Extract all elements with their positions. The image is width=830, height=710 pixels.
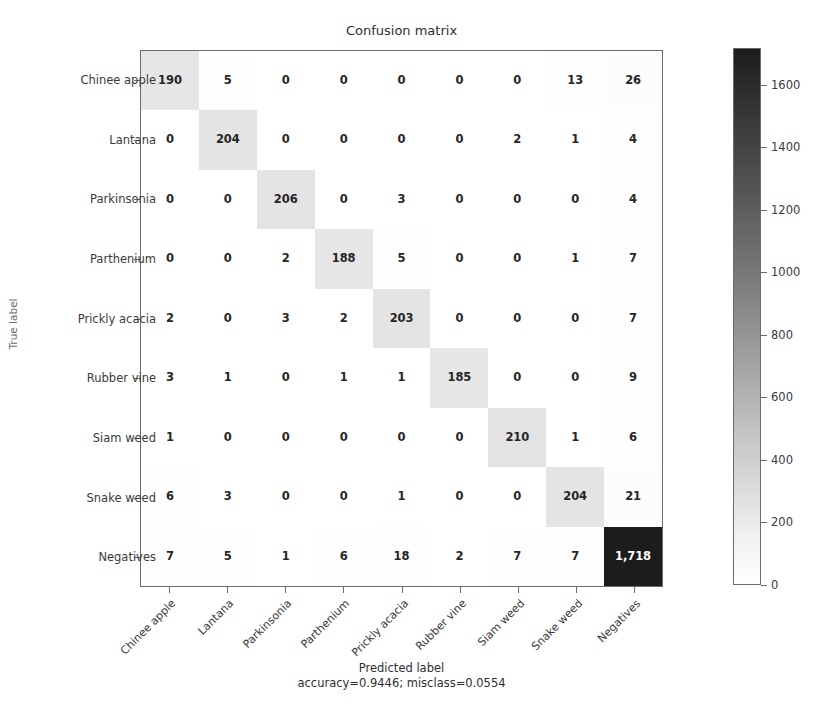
matrix-cell-value: 0 bbox=[166, 134, 174, 146]
matrix-cell: 2 bbox=[430, 527, 488, 586]
matrix-cell: 1 bbox=[373, 348, 431, 407]
matrix-cell: 0 bbox=[315, 408, 373, 467]
matrix-cell: 1 bbox=[546, 229, 604, 288]
matrix-cell-value: 0 bbox=[282, 491, 290, 503]
matrix-cell: 26 bbox=[604, 51, 662, 110]
colorbar: 02004006008001000120014001600 bbox=[733, 48, 761, 585]
x-tick-label: Lantana bbox=[121, 597, 236, 710]
colorbar-tick-label: 1000 bbox=[771, 265, 800, 279]
matrix-cell: 5 bbox=[373, 229, 431, 288]
matrix-cell-value: 210 bbox=[505, 432, 529, 444]
matrix-cell-value: 0 bbox=[455, 432, 463, 444]
matrix-cell: 0 bbox=[315, 467, 373, 526]
matrix-cell-value: 0 bbox=[398, 75, 406, 87]
matrix-cell-value: 0 bbox=[340, 432, 348, 444]
matrix-cell: 204 bbox=[199, 110, 257, 169]
matrix-cell-value: 7 bbox=[629, 313, 637, 325]
chart-title: Confusion matrix bbox=[140, 23, 663, 38]
matrix-cell-value: 1 bbox=[224, 372, 232, 384]
matrix-cell: 1 bbox=[546, 408, 604, 467]
matrix-cell-value: 0 bbox=[513, 313, 521, 325]
matrix-cell-value: 7 bbox=[629, 253, 637, 265]
matrix-cell: 0 bbox=[199, 408, 257, 467]
matrix-cell-value: 1 bbox=[340, 372, 348, 384]
matrix-cell: 0 bbox=[430, 170, 488, 229]
x-tick-label: Prickly acacia bbox=[295, 597, 410, 710]
matrix-cell-value: 6 bbox=[166, 491, 174, 503]
y-tick-label: Rubber vine bbox=[0, 371, 156, 385]
x-tick-mark bbox=[634, 587, 635, 593]
matrix-cell-value: 0 bbox=[340, 491, 348, 503]
matrix-cell-value: 0 bbox=[513, 253, 521, 265]
y-tick-label: Parkinsonia bbox=[0, 192, 156, 206]
matrix-cell-value: 0 bbox=[398, 134, 406, 146]
matrix-cell-value: 4 bbox=[629, 134, 637, 146]
x-tick-label: Negatives bbox=[528, 597, 643, 710]
matrix-cell: 0 bbox=[488, 51, 546, 110]
x-axis-label: Predicted label bbox=[140, 661, 663, 675]
matrix-cell-value: 5 bbox=[224, 75, 232, 87]
matrix-cell-value: 0 bbox=[224, 313, 232, 325]
matrix-cell-value: 0 bbox=[224, 253, 232, 265]
x-tick-mark bbox=[227, 587, 228, 593]
matrix-cell-value: 2 bbox=[513, 134, 521, 146]
matrix-cell: 206 bbox=[257, 170, 315, 229]
matrix-cell-value: 13 bbox=[567, 75, 583, 87]
colorbar-tick-label: 1600 bbox=[771, 78, 800, 92]
colorbar-tick-label: 600 bbox=[771, 390, 793, 404]
y-tick-label: Siam weed bbox=[0, 431, 156, 445]
y-tick-label: Parthenium bbox=[0, 252, 156, 266]
matrix-cell: 1,718 bbox=[604, 527, 662, 586]
matrix-cell-value: 6 bbox=[340, 551, 348, 563]
x-tick-label: Siam weed bbox=[412, 597, 527, 710]
matrix-cell-value: 1 bbox=[398, 491, 406, 503]
colorbar-tick-label: 400 bbox=[771, 453, 793, 467]
matrix-cell-value: 3 bbox=[166, 372, 174, 384]
matrix-cell: 9 bbox=[604, 348, 662, 407]
matrix-cell: 4 bbox=[604, 110, 662, 169]
matrix-cell-value: 190 bbox=[158, 75, 182, 87]
matrix-cell-value: 204 bbox=[563, 491, 587, 503]
matrix-cell: 7 bbox=[604, 229, 662, 288]
matrix-cell: 6 bbox=[604, 408, 662, 467]
x-tick-label: Parthenium bbox=[237, 597, 352, 710]
matrix-cell-value: 0 bbox=[224, 432, 232, 444]
matrix-cell-value: 0 bbox=[340, 75, 348, 87]
matrix-cell: 0 bbox=[373, 110, 431, 169]
matrix-cell-value: 0 bbox=[513, 491, 521, 503]
matrix-cell-value: 9 bbox=[629, 372, 637, 384]
matrix-cell-value: 0 bbox=[224, 194, 232, 206]
x-tick-label: Chinee apple bbox=[63, 597, 178, 710]
matrix-cell: 0 bbox=[257, 110, 315, 169]
matrix-cell: 0 bbox=[315, 170, 373, 229]
matrix-cell-value: 188 bbox=[332, 253, 356, 265]
matrix-cell-value: 18 bbox=[394, 551, 410, 563]
matrix-cell-value: 203 bbox=[390, 313, 414, 325]
matrix-cell: 13 bbox=[546, 51, 604, 110]
matrix-cell: 0 bbox=[373, 51, 431, 110]
matrix-cell: 0 bbox=[257, 467, 315, 526]
matrix-cell: 0 bbox=[488, 348, 546, 407]
matrix-cell-value: 1 bbox=[282, 551, 290, 563]
matrix-cell-value: 1 bbox=[166, 432, 174, 444]
matrix-cell: 3 bbox=[199, 467, 257, 526]
matrix-cell-value: 7 bbox=[166, 551, 174, 563]
matrix-cell-value: 6 bbox=[629, 432, 637, 444]
matrix-cell-value: 0 bbox=[571, 372, 579, 384]
colorbar-tick-label: 200 bbox=[771, 515, 793, 529]
matrix-cell-value: 3 bbox=[224, 491, 232, 503]
colorbar-tick-mark bbox=[761, 335, 767, 336]
confusion-matrix-figure: Confusion matrix True label 190500000132… bbox=[0, 0, 830, 710]
matrix-cell-value: 0 bbox=[455, 491, 463, 503]
matrix-cell: 0 bbox=[488, 170, 546, 229]
matrix-cell-value: 206 bbox=[274, 194, 298, 206]
matrix-cell: 18 bbox=[373, 527, 431, 586]
x-tick-mark bbox=[285, 587, 286, 593]
matrix-cell: 1 bbox=[199, 348, 257, 407]
matrix-cell: 0 bbox=[257, 408, 315, 467]
matrix-cell: 188 bbox=[315, 229, 373, 288]
matrix-cell: 0 bbox=[488, 289, 546, 348]
y-tick-label: Chinee apple bbox=[0, 73, 156, 87]
matrix-cell: 2 bbox=[257, 229, 315, 288]
matrix-cell-value: 1 bbox=[571, 432, 579, 444]
